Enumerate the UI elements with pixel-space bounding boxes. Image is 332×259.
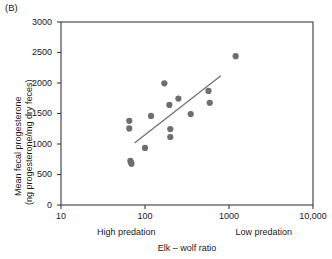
data-point [188,111,194,117]
data-point [205,88,211,94]
trendline [135,76,221,143]
data-point [166,102,172,108]
data-point [148,113,154,119]
plot-frame [61,22,313,205]
data-point [167,126,173,132]
data-point [233,53,239,59]
data-point [142,145,148,151]
data-point [128,161,134,167]
plot-area [0,0,332,259]
data-point [126,125,132,131]
data-point [161,80,167,86]
data-point [167,134,173,140]
data-point [175,95,181,101]
figure-panel-b: (B) Mean fecal progesterone (ng progeste… [0,0,332,259]
data-point [207,100,213,106]
data-point [126,118,132,124]
